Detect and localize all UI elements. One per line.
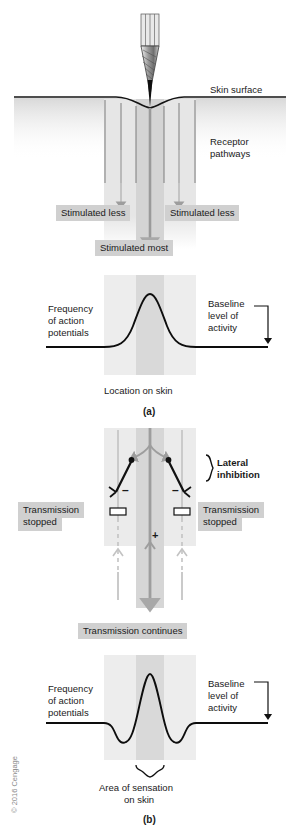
graph-b-ylabel-line2: of action	[48, 695, 84, 707]
inhibitory-neuron-soma-right	[166, 457, 172, 463]
receptor-pathways-label-line1: Receptor	[210, 136, 249, 148]
copyright-notice: © 2016 Cengage	[10, 745, 19, 825]
figure-canvas	[0, 0, 300, 835]
graph-b-xlabel-line1: Area of sensation	[99, 782, 173, 794]
panel-a-skin-diagram	[14, 14, 286, 254]
graph-b-baseline-pointer	[254, 682, 268, 717]
pencil-stylus-icon	[141, 14, 159, 107]
minus-sign-right: –	[172, 485, 179, 497]
minus-sign-left: –	[122, 485, 129, 497]
stimulated-less-right-label: Stimulated less	[165, 205, 239, 221]
panel-b-id: (b)	[143, 814, 156, 825]
graph-b-baseline-label-line1: Baseline	[208, 678, 244, 690]
graph-b-xlabel-line2: on skin	[124, 794, 154, 806]
graph-a-center-band	[136, 275, 164, 375]
lateral-inhibition-brace-icon	[206, 455, 213, 481]
lateral-inhibition-label-line1: Lateral	[217, 457, 248, 469]
graph-a-ylabel-line1: Frequency	[48, 303, 93, 315]
receptor-pathways-label-line2: pathways	[210, 148, 250, 160]
skin-surface-label: Skin surface	[210, 84, 262, 96]
transmission-stopped-right-label-line2: stopped	[198, 516, 242, 531]
graph-b-center-band	[136, 655, 164, 760]
transmission-block-icon-left	[110, 508, 126, 515]
graph-b-baseline-label-line3: activity	[208, 702, 237, 714]
plus-sign-center: +	[152, 530, 158, 542]
transmission-continues-label: Transmission continues	[78, 623, 187, 639]
stimulated-less-left-label: Stimulated less	[56, 205, 130, 221]
lateral-inhibition-label-line2: inhibition	[217, 469, 260, 481]
area-of-sensation-brace-icon	[136, 765, 164, 777]
graph-a-ylabel-line3: potentials	[48, 327, 89, 339]
stimulated-most-label: Stimulated most	[95, 240, 173, 256]
transmission-stopped-left-label-line2: stopped	[18, 516, 62, 531]
graph-a-baseline-label-line2: level of	[208, 310, 238, 322]
graph-b-ylabel-line1: Frequency	[48, 683, 93, 695]
graph-b-baseline-label-line2: level of	[208, 690, 238, 702]
graph-a-baseline-label-line1: Baseline	[208, 298, 244, 310]
graph-a-baseline-pointer	[254, 306, 268, 341]
graph-b-ylabel-line3: potentials	[48, 707, 89, 719]
graph-a-baseline-label-line3: activity	[208, 322, 237, 334]
inhibitory-neuron-soma-left	[129, 457, 135, 463]
transmission-block-icon-right	[174, 508, 190, 515]
lateral-inhibition-figure: Skin surface Receptor pathways Stimulate…	[0, 0, 300, 835]
panel-a-id: (a)	[143, 406, 155, 417]
graph-a-ylabel-line2: of action	[48, 315, 84, 327]
graph-a-xlabel: Location on skin	[104, 385, 173, 397]
panel-b-circuit-diagram	[104, 428, 213, 608]
